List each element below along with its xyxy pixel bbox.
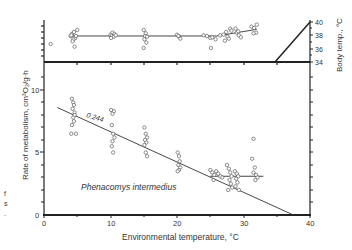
data-point [253, 166, 256, 169]
data-point [205, 34, 208, 37]
y2-tick-40: 40 [315, 19, 323, 26]
data-point [229, 182, 232, 185]
data-point [110, 145, 113, 148]
data-point [113, 136, 116, 139]
x-tick-0: 0 [42, 219, 46, 228]
side-text-3: . [4, 210, 6, 217]
data-point [72, 120, 75, 123]
data-point [72, 30, 75, 33]
y-tick-10: 10 [31, 86, 39, 95]
body-temp-axis: 40 38 36 34 Body temp., °C [310, 18, 344, 215]
data-point [111, 112, 114, 115]
data-point [230, 29, 233, 32]
data-point [219, 34, 222, 37]
data-point [110, 123, 113, 126]
data-point [213, 173, 216, 176]
side-text-1: f [4, 190, 6, 197]
x-tick-30: 30 [240, 219, 248, 228]
lower-panel-axes [40, 62, 311, 218]
data-point [227, 37, 230, 40]
data-point [234, 27, 237, 30]
data-point [111, 132, 114, 135]
fit-line [57, 108, 293, 216]
data-point [74, 34, 77, 37]
data-point [142, 28, 145, 31]
data-point [111, 151, 114, 154]
x-tick-10: 10 [107, 219, 115, 228]
data-point [221, 176, 224, 179]
data-point [230, 175, 233, 178]
data-point [178, 160, 181, 163]
y2-axis-label: Body temp., °C [335, 18, 344, 72]
upper-panel [41, 20, 310, 65]
data-point [143, 126, 146, 129]
data-point [72, 103, 75, 106]
axis-connector-line [275, 22, 310, 62]
data-point [202, 34, 205, 37]
data-point [145, 155, 148, 158]
data-point [211, 36, 214, 39]
data-point [230, 186, 233, 189]
data-point [71, 107, 74, 110]
data-point [255, 23, 258, 26]
y2-tick-34: 34 [315, 59, 323, 66]
data-point [73, 113, 76, 116]
side-text-2: s [4, 200, 8, 207]
data-point [176, 170, 179, 173]
data-point [254, 178, 257, 181]
data-point [114, 34, 117, 37]
data-point [177, 34, 180, 37]
data-point [228, 178, 231, 181]
cropped-side-text: f s . [4, 190, 8, 217]
data-point [214, 38, 217, 41]
data-point [227, 167, 230, 170]
data-point [236, 181, 239, 184]
data-point [76, 28, 79, 31]
data-point [143, 38, 146, 41]
x-tick-20: 20 [173, 219, 181, 228]
data-point [239, 36, 242, 39]
x-axis-label: Environmental temperature, °C [122, 232, 239, 242]
y-tick-0: 0 [35, 211, 39, 220]
data-point [71, 40, 74, 43]
data-point [73, 45, 76, 48]
data-point [252, 26, 255, 29]
data-point [252, 137, 255, 140]
data-point [252, 32, 255, 35]
data-point [234, 185, 237, 188]
data-points [49, 23, 259, 192]
data-point [142, 46, 145, 49]
y-tick-5: 5 [35, 148, 39, 157]
data-point [237, 188, 240, 191]
y2-tick-36: 36 [315, 46, 323, 53]
data-point [111, 140, 114, 143]
data-point [236, 30, 239, 33]
data-point [70, 97, 73, 100]
data-point [145, 41, 148, 44]
y-axis-label: Rate of metabolism, cm³O₂/g·h [21, 70, 30, 180]
data-point [143, 143, 146, 146]
data-point [70, 132, 73, 135]
y2-tick-38: 38 [315, 32, 323, 39]
data-point [229, 171, 232, 174]
data-point [225, 163, 228, 166]
data-point [250, 157, 253, 160]
data-point [212, 178, 215, 181]
data-point [225, 30, 228, 33]
data-point [209, 46, 212, 49]
data-point [74, 132, 77, 135]
data-point [109, 36, 112, 39]
data-point [49, 42, 52, 45]
data-point [145, 35, 148, 38]
data-point [176, 151, 179, 154]
species-label: Phenacomys intermedius [81, 182, 177, 192]
data-point [227, 188, 230, 191]
data-point [70, 123, 73, 126]
data-point [222, 33, 225, 36]
chart: 40 38 36 34 Body temp., °C 10 5 0 0 10 2… [0, 0, 352, 250]
data-point [223, 39, 226, 42]
data-point [144, 132, 147, 135]
x-tick-40: 40 [306, 219, 314, 228]
data-point [234, 177, 237, 180]
data-point [144, 151, 147, 154]
